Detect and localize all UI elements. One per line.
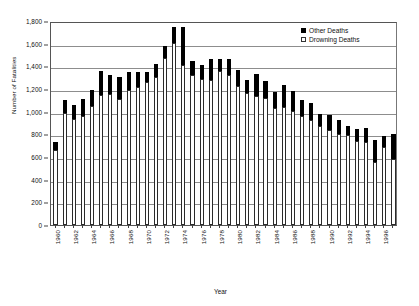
bar-segment-other-deaths[interactable] bbox=[236, 70, 240, 86]
bar-column[interactable] bbox=[181, 21, 185, 225]
bar-segment-other-deaths[interactable] bbox=[181, 27, 185, 64]
bar-segment-drowning-deaths[interactable] bbox=[282, 107, 286, 225]
bar-segment-drowning-deaths[interactable] bbox=[127, 90, 131, 225]
bar-segment-other-deaths[interactable] bbox=[218, 59, 222, 71]
bar-column[interactable] bbox=[154, 21, 158, 225]
bar-segment-other-deaths[interactable] bbox=[300, 100, 304, 116]
bar-segment-drowning-deaths[interactable] bbox=[318, 126, 322, 225]
bar-segment-drowning-deaths[interactable] bbox=[145, 82, 149, 225]
bar-column[interactable] bbox=[163, 21, 167, 225]
bar-segment-drowning-deaths[interactable] bbox=[190, 75, 194, 225]
bar-segment-other-deaths[interactable] bbox=[273, 92, 277, 107]
bar-column[interactable] bbox=[72, 21, 76, 225]
bar-column[interactable] bbox=[300, 21, 304, 225]
bar-segment-drowning-deaths[interactable] bbox=[72, 119, 76, 225]
bar-segment-drowning-deaths[interactable] bbox=[254, 96, 258, 225]
bar-column[interactable] bbox=[318, 21, 322, 225]
bar-segment-other-deaths[interactable] bbox=[200, 65, 204, 79]
bar-column[interactable] bbox=[172, 21, 176, 225]
bar-column[interactable] bbox=[117, 21, 121, 225]
bar-segment-other-deaths[interactable] bbox=[346, 126, 350, 136]
bar-segment-other-deaths[interactable] bbox=[63, 100, 67, 114]
bar-segment-other-deaths[interactable] bbox=[53, 142, 57, 150]
bar-segment-drowning-deaths[interactable] bbox=[391, 159, 395, 225]
bar-segment-other-deaths[interactable] bbox=[282, 85, 286, 107]
bar-column[interactable] bbox=[337, 21, 341, 225]
bar-segment-other-deaths[interactable] bbox=[81, 99, 85, 117]
bar-segment-drowning-deaths[interactable] bbox=[163, 58, 167, 225]
bar-segment-other-deaths[interactable] bbox=[227, 59, 231, 75]
bar-segment-other-deaths[interactable] bbox=[90, 90, 94, 106]
bar-segment-drowning-deaths[interactable] bbox=[364, 142, 368, 225]
bar-segment-other-deaths[interactable] bbox=[209, 59, 213, 80]
bar-segment-other-deaths[interactable] bbox=[136, 72, 140, 87]
bar-segment-other-deaths[interactable] bbox=[337, 120, 341, 134]
bar-segment-other-deaths[interactable] bbox=[117, 77, 121, 99]
bar-segment-other-deaths[interactable] bbox=[355, 129, 359, 141]
bar-segment-other-deaths[interactable] bbox=[291, 91, 295, 111]
legend-item[interactable]: Other Deaths bbox=[301, 26, 393, 35]
bar-column[interactable] bbox=[327, 21, 331, 225]
bar-segment-drowning-deaths[interactable] bbox=[263, 98, 267, 226]
bar-segment-other-deaths[interactable] bbox=[190, 61, 194, 75]
bar-segment-other-deaths[interactable] bbox=[254, 74, 258, 96]
bar-column[interactable] bbox=[209, 21, 213, 225]
bar-segment-other-deaths[interactable] bbox=[245, 80, 249, 93]
bar-segment-drowning-deaths[interactable] bbox=[373, 162, 377, 225]
bar-column[interactable] bbox=[190, 21, 194, 225]
bar-column[interactable] bbox=[263, 21, 267, 225]
bar-segment-other-deaths[interactable] bbox=[145, 72, 149, 82]
legend-item[interactable]: Drowning Deaths bbox=[301, 35, 393, 44]
bar-segment-other-deaths[interactable] bbox=[327, 115, 331, 130]
bar-column[interactable] bbox=[200, 21, 204, 225]
bar-segment-other-deaths[interactable] bbox=[99, 71, 103, 94]
bar-segment-drowning-deaths[interactable] bbox=[99, 95, 103, 225]
bar-segment-other-deaths[interactable] bbox=[163, 46, 167, 58]
bar-column[interactable] bbox=[291, 21, 295, 225]
bar-segment-drowning-deaths[interactable] bbox=[355, 141, 359, 225]
bar-segment-drowning-deaths[interactable] bbox=[346, 135, 350, 225]
bar-segment-drowning-deaths[interactable] bbox=[327, 130, 331, 225]
bar-segment-other-deaths[interactable] bbox=[364, 128, 368, 142]
bar-column[interactable] bbox=[254, 21, 258, 225]
bar-segment-drowning-deaths[interactable] bbox=[136, 87, 140, 225]
bar-column[interactable] bbox=[236, 21, 240, 225]
bar-segment-other-deaths[interactable] bbox=[382, 136, 386, 147]
bar-segment-drowning-deaths[interactable] bbox=[63, 113, 67, 225]
bar-segment-drowning-deaths[interactable] bbox=[291, 111, 295, 225]
bar-segment-drowning-deaths[interactable] bbox=[209, 80, 213, 225]
bar-column[interactable] bbox=[364, 21, 368, 225]
bar-segment-other-deaths[interactable] bbox=[108, 75, 112, 94]
bar-column[interactable] bbox=[63, 21, 67, 225]
bar-segment-drowning-deaths[interactable] bbox=[200, 79, 204, 225]
bar-segment-drowning-deaths[interactable] bbox=[300, 116, 304, 225]
bar-segment-drowning-deaths[interactable] bbox=[382, 147, 386, 225]
bar-column[interactable] bbox=[373, 21, 377, 225]
bar-column[interactable] bbox=[218, 21, 222, 225]
bar-segment-drowning-deaths[interactable] bbox=[273, 108, 277, 225]
bar-segment-drowning-deaths[interactable] bbox=[245, 93, 249, 225]
bar-segment-drowning-deaths[interactable] bbox=[236, 86, 240, 225]
bar-column[interactable] bbox=[282, 21, 286, 225]
bar-column[interactable] bbox=[108, 21, 112, 225]
bar-segment-drowning-deaths[interactable] bbox=[108, 94, 112, 225]
bar-segment-drowning-deaths[interactable] bbox=[337, 134, 341, 225]
bar-column[interactable] bbox=[309, 21, 313, 225]
bar-segment-drowning-deaths[interactable] bbox=[172, 43, 176, 225]
bar-column[interactable] bbox=[346, 21, 350, 225]
bar-segment-drowning-deaths[interactable] bbox=[227, 75, 231, 225]
bar-column[interactable] bbox=[136, 21, 140, 225]
bar-column[interactable] bbox=[227, 21, 231, 225]
bar-segment-drowning-deaths[interactable] bbox=[117, 99, 121, 225]
bar-segment-other-deaths[interactable] bbox=[373, 140, 377, 162]
bar-segment-drowning-deaths[interactable] bbox=[218, 71, 222, 225]
bar-segment-other-deaths[interactable] bbox=[172, 27, 176, 43]
bar-segment-other-deaths[interactable] bbox=[72, 105, 76, 119]
bar-segment-drowning-deaths[interactable] bbox=[53, 150, 57, 225]
bar-column[interactable] bbox=[53, 21, 57, 225]
bar-segment-other-deaths[interactable] bbox=[263, 81, 267, 97]
bar-column[interactable] bbox=[382, 21, 386, 225]
bar-segment-other-deaths[interactable] bbox=[391, 134, 395, 159]
bar-segment-other-deaths[interactable] bbox=[309, 103, 313, 120]
bar-column[interactable] bbox=[127, 21, 131, 225]
